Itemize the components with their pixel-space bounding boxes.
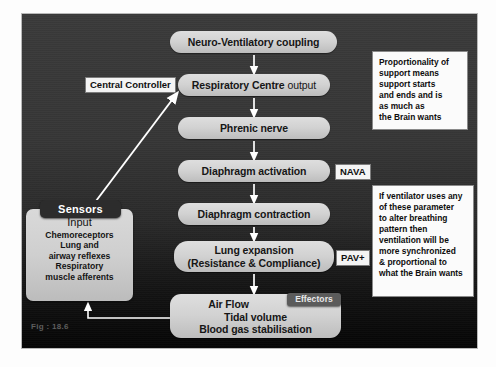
note-proportionality: Proportionality of support means support… bbox=[373, 52, 467, 129]
flow-step-diaphragm-activation: Diaphragm activation bbox=[178, 160, 330, 182]
note-line: of these parameter bbox=[379, 202, 468, 213]
sensors-input-item: Chemoreceptors bbox=[45, 230, 113, 240]
sensors-input-item: muscle afferents bbox=[45, 272, 113, 282]
flow-step-neuro-ventilatory-coupling: Neuro-Ventilatory coupling bbox=[170, 31, 337, 53]
flow-step-line1: Lung expansion bbox=[188, 244, 321, 257]
flow-step-label: Diaphragm contraction bbox=[198, 208, 311, 221]
figure-caption: Fig : 18.6 bbox=[31, 322, 69, 331]
note-line: support starts bbox=[379, 79, 462, 90]
flow-step-line1: Air Flow bbox=[208, 298, 249, 311]
label-central-controller: Central Controller bbox=[86, 78, 175, 92]
sensors-input-item: airway reflexes bbox=[45, 251, 113, 261]
flow-step-phrenic-nerve: Phrenic nerve bbox=[178, 117, 330, 139]
flow-step-lung-expansion: Lung expansion (Resistance & Compliance) bbox=[174, 241, 334, 272]
label-pav-plus: PAV+ bbox=[337, 251, 369, 265]
flow-step-diaphragm-contraction: Diaphragm contraction bbox=[178, 203, 330, 225]
flow-step-label-thin: output bbox=[288, 79, 317, 92]
flow-step-label-bold: Respiratory Centre bbox=[192, 79, 285, 92]
note-line: Proportionality of bbox=[379, 57, 462, 68]
sensors-input-box: Input Chemoreceptors Lung and airway ref… bbox=[26, 209, 133, 301]
note-line: what the Brain wants bbox=[379, 268, 468, 279]
label-nava: NAVA bbox=[336, 165, 370, 179]
note-line: and ends and is bbox=[379, 90, 462, 101]
flow-step-label: Neuro-Ventilatory coupling bbox=[188, 36, 320, 49]
note-line: as much as bbox=[379, 101, 462, 112]
flow-step-respiratory-centre-output: Respiratory Centre output bbox=[178, 74, 330, 96]
flow-step-label: Phrenic nerve bbox=[220, 122, 288, 135]
note-line: support means bbox=[379, 68, 462, 79]
note-line: more synchronized bbox=[379, 246, 468, 257]
note-line: If ventilator uses any bbox=[379, 191, 468, 202]
sensors-input-item: Respiratory bbox=[45, 261, 113, 271]
label-effectors: Effectors bbox=[287, 293, 341, 306]
figure-canvas: Neuro-Ventilatory coupling Respiratory C… bbox=[0, 0, 496, 367]
note-line: to alter breathing bbox=[379, 213, 468, 224]
flow-step-line2: (Resistance & Compliance) bbox=[188, 257, 321, 270]
note-ventilator-parameters: If ventilator uses any of these paramete… bbox=[373, 186, 473, 296]
sensors-input-list: Chemoreceptors Lung and airway reflexes … bbox=[45, 230, 113, 282]
note-line: pattern then bbox=[379, 224, 468, 235]
flow-step-label: Diaphragm activation bbox=[202, 165, 307, 178]
sensors-input-item: Lung and bbox=[45, 240, 113, 250]
note-line: ventilation will be bbox=[379, 235, 468, 246]
note-line: the Brain wants bbox=[379, 112, 462, 123]
flow-step-line2: Tidal volume bbox=[224, 311, 287, 324]
flow-step-line3: Blood gas stabilisation bbox=[199, 323, 312, 336]
label-sensors: Sensors bbox=[40, 200, 121, 218]
note-line: & proportional to bbox=[379, 257, 468, 268]
